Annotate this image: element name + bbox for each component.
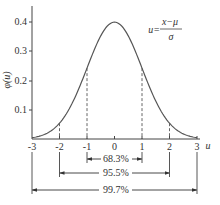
x-tick-label: -2 — [55, 141, 63, 152]
y-tick-label: 0.3 — [15, 45, 28, 56]
interval-label: 68.3% — [103, 153, 129, 164]
formula: u= x−μ σ — [148, 16, 182, 42]
formula-denominator: σ — [169, 31, 175, 42]
y-tick-label: 0.1 — [15, 104, 28, 115]
interval-label: 99.7% — [103, 184, 129, 195]
x-axis-label: u — [206, 140, 211, 151]
formula-lhs: u= — [148, 24, 160, 35]
x-ticks: -3 -2 -1 0 1 2 3 — [28, 136, 200, 152]
x-tick-label: 1 — [140, 141, 145, 152]
interval-99: 99.7% — [33, 184, 197, 195]
normal-distribution-chart: 0.1 0.2 0.3 0.4 φ(u) -3 -2 -1 0 1 2 3 u … — [0, 0, 220, 205]
x-tick-label: 0 — [112, 141, 117, 152]
interval-68: 68.3% — [88, 153, 142, 164]
x-tick-label: -3 — [28, 141, 36, 152]
x-tick-label: -1 — [83, 141, 91, 152]
interval-95: 95.5% — [60, 167, 169, 178]
y-tick-label: 0.4 — [15, 16, 28, 27]
interval-label: 95.5% — [103, 167, 129, 178]
x-tick-label: 3 — [195, 141, 200, 152]
formula-numerator: x−μ — [161, 16, 178, 27]
x-tick-label: 2 — [167, 141, 172, 152]
y-tick-label: 0.2 — [15, 75, 28, 86]
y-axis-label: φ(u) — [1, 71, 13, 89]
y-ticks: 0.1 0.2 0.3 0.4 — [15, 16, 33, 115]
dashed-guides — [60, 68, 170, 139]
